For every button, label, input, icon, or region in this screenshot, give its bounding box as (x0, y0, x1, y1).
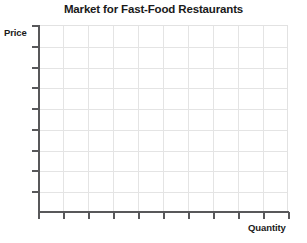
gridline-horizontal (38, 151, 287, 152)
x-axis-tick (138, 212, 140, 219)
chart-title: Market for Fast-Food Restaurants (0, 3, 307, 15)
gridline-vertical (238, 26, 239, 212)
gridline-vertical (138, 26, 139, 212)
x-axis-tick (238, 212, 240, 219)
y-axis-line (38, 25, 40, 213)
y-axis-tick (32, 129, 39, 131)
gridline-vertical (163, 26, 164, 212)
y-axis-label: Price (4, 27, 27, 38)
x-axis-tick (38, 212, 40, 219)
gridline-horizontal (38, 192, 287, 193)
chart-figure: Market for Fast-Food Restaurants Price Q… (0, 0, 307, 243)
y-axis-tick (32, 46, 39, 48)
x-axis-tick (213, 212, 215, 219)
x-axis-tick (63, 212, 65, 219)
x-axis-tick (188, 212, 190, 219)
gridline-horizontal (38, 47, 287, 48)
gridline-horizontal (38, 68, 287, 69)
x-axis-tick (88, 212, 90, 219)
x-axis-tick (163, 212, 165, 219)
gridline-horizontal (38, 130, 287, 131)
gridline-vertical (188, 26, 189, 212)
gridline-vertical (113, 26, 114, 212)
y-axis-tick (32, 87, 39, 89)
y-axis-tick (32, 191, 39, 193)
x-axis-label: Quantity (248, 222, 286, 233)
x-axis-tick (288, 212, 290, 219)
x-axis-tick (263, 212, 265, 219)
gridline-vertical (88, 26, 89, 212)
gridline-horizontal (38, 88, 287, 89)
y-axis-tick (32, 170, 39, 172)
x-axis-tick (113, 212, 115, 219)
gridline-vertical (213, 26, 214, 212)
gridline-vertical (63, 26, 64, 212)
y-axis-tick (32, 150, 39, 152)
gridline-horizontal (38, 171, 287, 172)
y-axis-tick (32, 67, 39, 69)
gridline-horizontal (38, 109, 287, 110)
plot-area (38, 25, 288, 212)
y-axis-tick (32, 25, 39, 27)
gridline-vertical (263, 26, 264, 212)
y-axis-tick (32, 108, 39, 110)
